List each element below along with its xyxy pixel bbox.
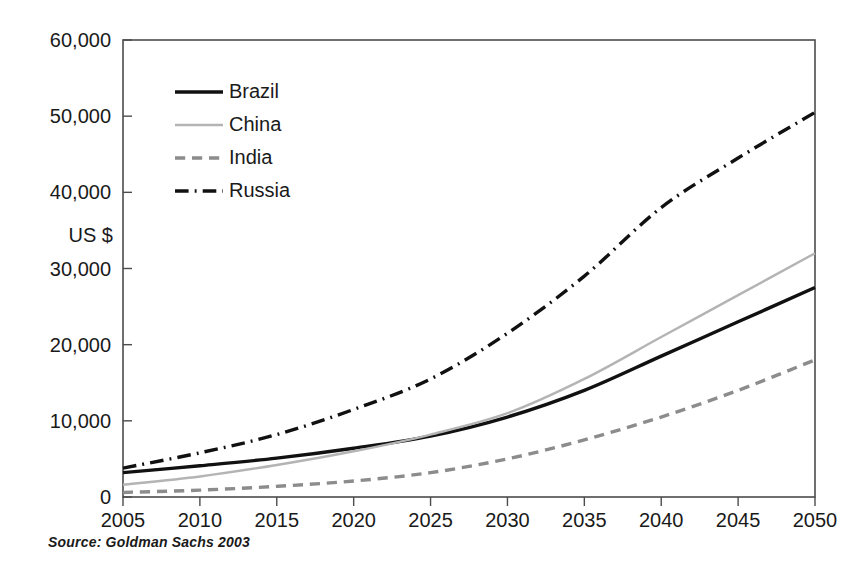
x-tick-label: 2045 [716,509,761,531]
y-tick-label: 0 [100,486,111,508]
y-axis-unit-label: US $ [69,224,113,246]
x-tick-label: 2005 [101,509,146,531]
y-tick-label: 40,000 [50,181,111,203]
y-tick-label: 20,000 [50,334,111,356]
x-tick-label: 2015 [255,509,300,531]
gdp-per-capita-line-chart: 010,00020,00030,00040,00050,00060,000 20… [0,0,852,578]
chart-figure: 010,00020,00030,00040,00050,00060,000 20… [0,0,852,578]
y-tick-label: 50,000 [50,105,111,127]
x-tick-label: 2020 [331,509,376,531]
source-caption: Source: Goldman Sachs 2003 [48,534,250,550]
y-tick-label: 30,000 [50,258,111,280]
x-tick-label: 2040 [639,509,684,531]
y-tick-label: 10,000 [50,410,111,432]
y-tick-label: 60,000 [50,29,111,51]
x-tick-label: 2025 [408,509,453,531]
x-tick-label: 2030 [485,509,530,531]
legend-label-china: China [229,113,282,135]
x-tick-label: 2035 [562,509,607,531]
legend-label-india: India [229,146,273,168]
x-tick-label: 2010 [178,509,223,531]
legend-label-russia: Russia [229,179,291,201]
x-tick-label: 2050 [793,509,838,531]
legend-label-brazil: Brazil [229,80,279,102]
